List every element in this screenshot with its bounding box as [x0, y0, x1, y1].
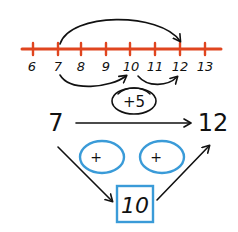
tick-label-13: 13	[197, 59, 214, 74]
intermediate-number: 10	[121, 193, 149, 218]
right-bubble-label: +	[150, 149, 162, 165]
number-line-labels: 6 7 8 9 10 11 12 13	[28, 59, 213, 74]
plus-five-operator: +5	[112, 88, 156, 114]
tick-label-8: 8	[77, 59, 85, 74]
intermediate-box: 10	[117, 186, 153, 222]
left-bubble-label: +	[90, 149, 102, 165]
tick-label-10: 10	[123, 59, 140, 74]
jump-arrow-7-to-10	[60, 75, 126, 86]
right-bubble	[140, 141, 184, 173]
tick-label-12: 12	[172, 59, 189, 74]
operator-label: +5	[123, 93, 145, 111]
diagram-svg: 6 7 8 9 10 11 12 13 +5 7 12	[0, 0, 238, 232]
number-line-jumps	[60, 20, 180, 94]
number-line: 6 7 8 9 10 11 12 13	[22, 43, 221, 74]
tick-label-9: 9	[102, 59, 110, 74]
tick-label-11: 11	[147, 59, 164, 74]
left-bubble	[80, 141, 124, 173]
start-number: 7	[48, 109, 63, 137]
end-number: 12	[198, 109, 229, 137]
decomposition-bubbles: + +	[80, 141, 184, 173]
tick-label-7: 7	[54, 59, 63, 74]
jump-arrow-10-to-12	[138, 76, 177, 84]
diagram-canvas: 6 7 8 9 10 11 12 13 +5 7 12	[0, 0, 238, 232]
tick-label-6: 6	[28, 59, 36, 74]
jump-arrow-7-to-12	[60, 20, 180, 44]
